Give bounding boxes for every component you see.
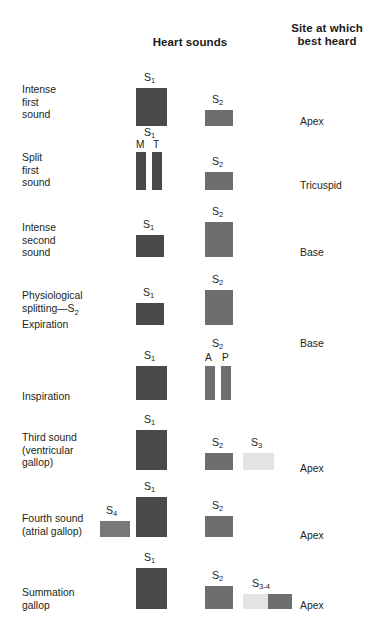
- bar-s2: [205, 290, 233, 325]
- row-site: Apex: [300, 600, 378, 611]
- sound-subscript: 2: [219, 574, 223, 583]
- row-site: Apex: [300, 463, 378, 474]
- sound-subscript: 3: [258, 441, 262, 450]
- row-label-line-2: splitting—S2: [22, 303, 79, 314]
- row-site: Apex: [300, 530, 378, 541]
- sound-subscript: 1: [151, 354, 155, 363]
- bar-s3: [243, 453, 274, 470]
- component-label-p: P: [222, 353, 229, 363]
- bar-s1-mitral: [136, 152, 146, 190]
- row-site: Base: [300, 247, 378, 258]
- sound-subscript: 1: [150, 223, 154, 232]
- bar-s2: [205, 586, 233, 609]
- sound-label-s2: S2: [212, 570, 223, 581]
- row-label: Intense second sound: [22, 222, 126, 260]
- bar-s4: [100, 521, 130, 537]
- row-label-line-1: Physiological: [22, 290, 83, 301]
- sound-label-s1: S1: [144, 127, 155, 138]
- component-label-a: A: [205, 353, 212, 363]
- sound-label-s2: S2: [212, 206, 223, 217]
- sound-subscript: 1: [151, 485, 155, 494]
- sound-label-s3-4: S3-4: [252, 578, 270, 589]
- sound-subscript: 2: [219, 441, 223, 450]
- sound-label-s1: S1: [143, 219, 154, 230]
- sound-label-s3: S3: [251, 437, 262, 448]
- sound-label-s2: S2: [212, 437, 223, 448]
- sound-label-s1: S1: [144, 350, 155, 361]
- sound-label-s1: S1: [144, 414, 155, 425]
- sound-subscript: 2: [219, 160, 223, 169]
- sound-label-s4: S4: [106, 505, 117, 516]
- sound-subscript: 1: [151, 418, 155, 427]
- sound-subscript: 2: [219, 210, 223, 219]
- bar-s2: [205, 172, 233, 190]
- bar-s3-4: [243, 594, 292, 609]
- bar-s1: [136, 497, 167, 537]
- bar-s1-tricuspid: [152, 152, 162, 190]
- bar-s2: [205, 222, 233, 257]
- sound-label-s1: S1: [143, 287, 154, 298]
- row-label: Physiologicalsplitting—S2Expiration: [22, 290, 126, 332]
- sound-subscript: 4: [113, 509, 117, 518]
- sound-subscript: 1: [151, 556, 155, 565]
- row-site: Base: [300, 338, 378, 349]
- row-site: Tricuspid: [300, 180, 378, 191]
- row-label: Third sound (ventricular gallop): [22, 432, 126, 470]
- column-header-heart-sounds: Heart sounds: [120, 36, 260, 49]
- bar-s2: [205, 110, 233, 126]
- bar-s1: [136, 303, 164, 325]
- heart-sounds-diagram: Heart sounds Site at whichbest heard Int…: [0, 0, 378, 644]
- bar-s1: [136, 235, 164, 257]
- row-label: Split first sound: [22, 152, 126, 190]
- component-label-m: M: [136, 140, 145, 150]
- bar-s1: [136, 430, 167, 470]
- sound-subscript: 2: [219, 278, 223, 287]
- bar-s2-pulmonic: [221, 366, 231, 400]
- sound-label-s2: S2: [212, 338, 223, 349]
- bar-s3-4-segment-medium: [268, 594, 292, 609]
- sound-subscript: 2: [219, 342, 223, 351]
- bar-s1: [136, 88, 167, 126]
- sound-subscript: 2: [219, 98, 223, 107]
- bar-s2: [205, 453, 233, 470]
- bar-s2: [205, 516, 233, 537]
- site-header-line-2: best heard: [297, 35, 356, 47]
- sound-label-s2: S2: [212, 94, 223, 105]
- column-header-site-best-heard: Site at whichbest heard: [278, 22, 376, 48]
- sound-subscript: 1: [151, 76, 155, 85]
- row-label: Summation gallop: [22, 587, 126, 612]
- sound-label-s2: S2: [212, 156, 223, 167]
- sound-subscript: 2: [219, 504, 223, 513]
- site-header-line-1: Site at which: [291, 22, 363, 34]
- component-label-t: T: [153, 140, 159, 150]
- row-label: Inspiration: [22, 391, 126, 404]
- sound-label-s1: S1: [144, 552, 155, 563]
- row-label-line-3: Expiration: [22, 319, 68, 330]
- sound-label-s2: S2: [212, 274, 223, 285]
- row-site: Apex: [300, 116, 378, 127]
- sound-subscript: 1: [150, 291, 154, 300]
- sound-label-s1: S1: [144, 72, 155, 83]
- sound-label-s1: S1: [144, 481, 155, 492]
- bar-s2-aortic: [205, 366, 215, 400]
- sound-subscript: 3-4: [259, 582, 270, 591]
- row-label: Intense first sound: [22, 84, 126, 122]
- bar-s1: [136, 366, 167, 400]
- bar-s3-4-segment-light: [243, 594, 268, 609]
- sound-label-s2: S2: [212, 500, 223, 511]
- bar-s1: [136, 568, 167, 609]
